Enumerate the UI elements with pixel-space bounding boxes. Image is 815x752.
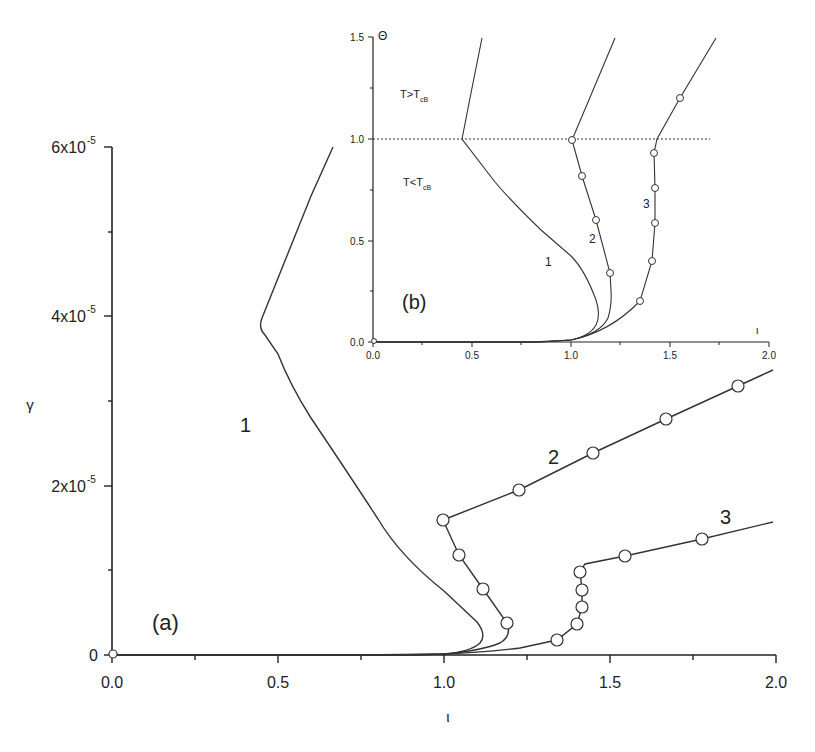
main-x-tick-3: 1.5 [599,674,621,691]
main-y-tick-exp: -5 [87,474,96,485]
inset-y-ticks [368,37,373,342]
inset-x-tick-0: 0.0 [366,350,380,361]
inset-curve-label-3: 3 [643,197,650,211]
origin-marker [109,650,117,658]
main-curve-3-markers [551,533,708,646]
panel-label-a: (a) [152,610,179,635]
inset-curve-label-1: 1 [545,255,552,269]
main-y-tick-4e-5: 4x10 [51,308,86,325]
inset-x-tick-1: 0.5 [465,350,479,361]
inset-y-tick-2: 1.0 [350,134,364,145]
figure: 0 2x10 -5 4x10 -5 6x10 -5 0.0 0.5 1.0 1.… [0,0,815,752]
main-curve-label-3: 3 [720,506,731,528]
main-y-tick-exp: -5 [87,304,96,315]
inset-y-tick-3: 1.5 [350,32,364,43]
main-x-label: ι [446,708,449,725]
main-y-tick-exp: -5 [87,135,96,146]
main-curve-3 [112,522,773,655]
main-x-tick-0: 0.0 [101,674,123,691]
main-curve-label-2: 2 [548,446,559,468]
main-y-tick-0: 0 [89,647,98,664]
inset-y-label: Θ [378,29,387,43]
main-x-tick-2: 1.0 [433,674,455,691]
main-x-tick-1: 0.5 [267,674,289,691]
main-x-ticks [112,655,776,663]
main-curve-label-1: 1 [240,414,251,436]
main-curve-2 [112,370,773,655]
main-y-label: γ [26,396,34,413]
inset-y-tick-1: 0.5 [350,236,364,247]
main-y-ticks [104,147,112,655]
inset-background [375,30,775,340]
inset-y-tick-0: 0.0 [350,337,364,348]
inset-x-tick-4: 2.0 [762,350,776,361]
inset-x-ticks [373,342,769,347]
panel-label-b: (b) [402,291,426,313]
main-x-tick-4: 2.0 [765,674,787,691]
inset-chart: 0.0 0.5 1.0 1.5 0.0 0.5 1.0 1.5 2.0 Θ ι … [350,29,776,361]
main-y-tick-2e-5: 2x10 [51,478,86,495]
inset-x-tick-3: 1.5 [663,350,677,361]
inset-curve-label-2: 2 [589,232,596,246]
inset-x-tick-2: 1.0 [564,350,578,361]
inset-origin-marker [372,339,377,344]
main-y-tick-6e-5: 6x10 [51,139,86,156]
